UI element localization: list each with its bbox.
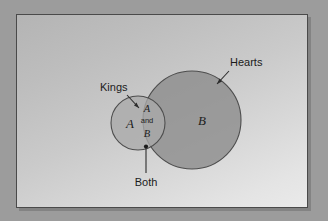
intersection-label-and: and	[141, 116, 154, 125]
figure-root: A B A and B Kings Hearts Both	[0, 0, 328, 221]
set-symbol-b: B	[198, 113, 206, 128]
intersection-label-a: A	[143, 103, 151, 114]
callout-hearts: Hearts	[230, 56, 263, 68]
venn-diagram-panel: A B A and B Kings Hearts Both	[16, 14, 308, 208]
intersection-label-b: B	[144, 128, 151, 139]
venn-diagram-svg: A B A and B Kings Hearts Both	[17, 15, 308, 208]
callout-kings: Kings	[100, 81, 128, 93]
set-symbol-a: A	[125, 116, 134, 131]
callout-both: Both	[135, 176, 158, 188]
both-anchor-dot	[144, 144, 148, 148]
circle-set-a-kings	[111, 96, 165, 150]
